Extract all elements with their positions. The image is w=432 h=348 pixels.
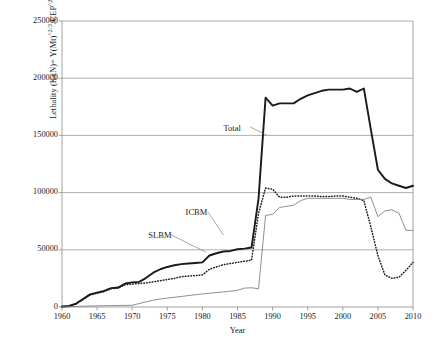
series-line-slbm <box>62 197 413 307</box>
series-line-total <box>62 89 413 307</box>
x-tick-label: 1965 <box>77 312 117 321</box>
y-tick-label: 50000 <box>4 244 58 253</box>
lethality-line-chart: Lethality (KxN)= Y(Mt)^2/3/CEP^2 x N 050… <box>0 0 432 348</box>
y-tick-label: 100000 <box>4 187 58 196</box>
x-tick-label: 1985 <box>218 312 258 321</box>
annotation-leader-lines <box>170 127 267 252</box>
x-tick-label: 2010 <box>393 312 432 321</box>
series-label-icbm: ICBM <box>186 207 208 217</box>
y-tick-label: 150000 <box>4 130 58 139</box>
y-tick-label: 0 <box>4 302 58 311</box>
x-tick-label: 2000 <box>323 312 363 321</box>
x-tick-label: 1960 <box>42 312 82 321</box>
plot-area <box>0 0 432 348</box>
x-tick-label: 1990 <box>253 312 293 321</box>
series-line-icbm <box>62 188 413 307</box>
x-axis-title: Year <box>208 325 268 335</box>
axis-frame <box>62 21 413 307</box>
series-label-total: Total <box>223 123 240 133</box>
x-tick-label: 1995 <box>288 312 328 321</box>
x-tick-label: 2005 <box>358 312 398 321</box>
series-label-slbm: SLBM <box>148 230 171 240</box>
y-tick-marks <box>59 21 63 307</box>
x-tick-label: 1970 <box>112 312 152 321</box>
y-tick-label: 200000 <box>4 73 58 82</box>
series-lines <box>62 89 413 307</box>
y-tick-label: 250000 <box>4 16 58 25</box>
x-tick-label: 1980 <box>182 312 222 321</box>
x-tick-label: 1975 <box>147 312 187 321</box>
gridlines <box>62 21 413 250</box>
x-tick-marks <box>62 307 413 311</box>
